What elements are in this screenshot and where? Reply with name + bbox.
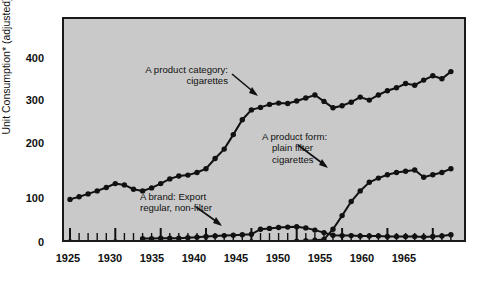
data-point	[67, 239, 72, 240]
data-point	[212, 156, 217, 161]
data-point	[104, 185, 109, 190]
data-point	[376, 175, 381, 180]
data-point	[358, 188, 363, 193]
data-point	[167, 176, 172, 181]
data-point	[385, 172, 390, 177]
data-point	[240, 232, 245, 237]
data-point	[349, 100, 354, 105]
data-point	[203, 234, 208, 239]
x-tick-label-1950: 1950	[255, 252, 301, 264]
data-point	[85, 191, 90, 196]
data-point	[448, 232, 453, 237]
chart-figure: Unit Consumption* (adjusted) 400 300 200…	[0, 0, 485, 281]
data-point	[421, 175, 426, 180]
data-point	[312, 238, 317, 240]
data-point	[258, 105, 263, 110]
data-point	[158, 236, 163, 241]
data-point	[439, 233, 444, 238]
x-tick-label-1965: 1965	[381, 252, 427, 264]
data-point	[421, 234, 426, 239]
annotation-form-line3: cigarettes	[262, 154, 314, 165]
data-point	[430, 172, 435, 177]
data-point	[430, 73, 435, 78]
data-point	[349, 199, 354, 204]
data-point	[276, 225, 281, 230]
data-point	[185, 172, 190, 177]
data-point	[385, 234, 390, 239]
x-tick-label-1930: 1930	[87, 252, 133, 264]
data-point	[339, 103, 344, 108]
data-point	[194, 235, 199, 240]
plot-area	[62, 17, 466, 242]
data-point	[367, 233, 372, 238]
data-point	[439, 76, 444, 81]
data-series-group	[67, 69, 453, 240]
data-point	[67, 197, 72, 202]
data-point	[149, 185, 154, 190]
data-point	[367, 180, 372, 185]
data-point	[149, 236, 154, 240]
data-point	[376, 92, 381, 97]
data-point	[222, 146, 227, 151]
data-point	[339, 233, 344, 238]
x-tick-label-1935: 1935	[129, 252, 175, 264]
data-point	[285, 101, 290, 106]
data-point	[267, 102, 272, 107]
data-point	[430, 234, 435, 239]
data-point	[203, 166, 208, 171]
data-point	[448, 166, 453, 171]
data-point	[231, 233, 236, 238]
data-point	[349, 233, 354, 238]
data-point	[412, 234, 417, 239]
data-point	[185, 235, 190, 240]
data-point	[240, 117, 245, 122]
data-point	[294, 238, 299, 240]
data-point	[303, 225, 308, 230]
x-tick-label-1960: 1960	[339, 252, 385, 264]
data-point	[394, 85, 399, 90]
data-point	[321, 99, 326, 104]
y-tick-label-200: 200	[10, 137, 44, 149]
annotation-brand-line1: A brand: Export	[140, 191, 206, 202]
annotation-category-line2: cigarettes	[186, 75, 228, 86]
data-point	[76, 194, 81, 199]
data-point	[439, 170, 444, 175]
data-point	[321, 230, 326, 235]
data-point	[448, 69, 453, 74]
data-point	[131, 187, 136, 192]
x-tick-label-1945: 1945	[213, 252, 259, 264]
x-tick-label-1940: 1940	[171, 252, 217, 264]
data-point	[249, 239, 254, 240]
data-point	[95, 188, 100, 193]
data-point	[403, 169, 408, 174]
data-point	[339, 213, 344, 218]
x-tick-label-1955: 1955	[297, 252, 343, 264]
data-point	[358, 233, 363, 238]
data-point	[222, 233, 227, 238]
data-point	[367, 97, 372, 102]
annotation-form-line1: A product form:	[262, 131, 327, 142]
y-tick-label-100: 100	[10, 192, 44, 204]
data-point	[403, 81, 408, 86]
plot-canvas	[64, 19, 464, 240]
data-point	[330, 233, 335, 238]
x-tick-label-1925: 1925	[45, 252, 91, 264]
data-point	[394, 170, 399, 175]
data-point	[140, 236, 145, 240]
y-tick-label-0: 0	[10, 236, 44, 248]
annotation-brand-line2: regular, non-filter	[140, 202, 212, 213]
data-point	[249, 232, 254, 237]
data-point	[203, 239, 208, 240]
data-point	[421, 77, 426, 82]
data-point	[294, 98, 299, 103]
data-point	[312, 227, 317, 232]
data-point	[258, 227, 263, 232]
data-point	[176, 173, 181, 178]
data-point	[312, 92, 317, 97]
annotation-form-line2: plain filter	[262, 142, 313, 153]
data-point	[176, 236, 181, 241]
data-point	[394, 234, 399, 239]
series-line	[70, 72, 451, 200]
data-point	[122, 182, 127, 187]
data-point	[285, 224, 290, 229]
